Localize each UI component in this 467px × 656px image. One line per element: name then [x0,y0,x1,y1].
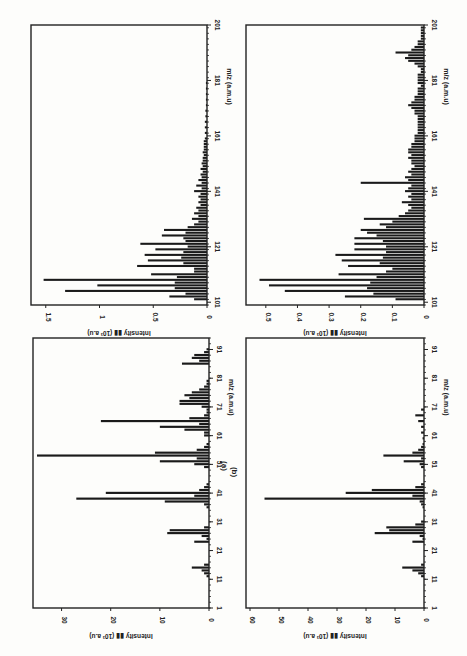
bar [415,46,424,48]
x-tick-label: 101 [431,297,438,308]
bar [184,429,209,431]
bar [184,394,209,396]
bar [412,452,424,454]
bar [412,541,424,543]
x-tick-label: 121 [431,241,438,252]
bar [361,229,424,231]
bar [201,193,207,195]
bar [405,190,424,192]
chart-panel-a-high: 10112114116118120100.511.5m/z (a.m.u)Int… [31,20,233,337]
plot-frame [246,338,424,608]
bar [160,460,209,462]
bar [408,157,424,159]
bar [196,207,207,209]
x-tick-label: 1 [431,606,438,610]
bar [194,190,207,192]
bar [194,354,209,356]
bar [335,254,424,256]
bar [411,198,424,200]
bar [418,43,424,45]
bar [383,454,424,456]
y-tick-label: 0.3 [328,312,335,321]
bar [197,457,209,459]
x-tick-label: 21 [431,547,438,555]
bar [418,449,424,451]
y-tick-label: 20 [110,616,117,624]
bar [65,290,207,292]
x-tick-label: 201 [431,20,438,31]
bar [364,218,424,220]
bar [408,179,424,181]
x-tick-label: 71 [431,403,438,411]
bar [411,107,424,109]
y-tick-label: 40 [307,616,314,624]
x-tick-label: 81 [431,375,438,383]
bar [204,503,209,505]
y-tick-label: 0.1 [391,312,398,321]
bar [415,140,424,142]
bar [408,60,424,62]
x-tick-label: 81 [216,375,223,383]
bar [411,101,424,103]
y-tick-label: 1 [99,315,106,319]
x-axis-label: m/z (a.m.u) [225,68,233,105]
bar [411,162,424,164]
bar [202,187,207,189]
bar [192,218,207,220]
bar [259,279,424,281]
bar [346,492,424,494]
bar [140,243,207,245]
bar [180,403,209,405]
bar [392,268,424,270]
bar [370,282,424,284]
bar [198,215,207,217]
bar [188,226,207,228]
bar [199,388,209,390]
bar [408,187,424,189]
bar [372,489,424,491]
bar [418,65,424,67]
bar [415,414,424,416]
bar [198,179,207,181]
mass-spectra-figure: 10112114116118120100.511.5m/z (a.m.u)Int… [0,0,467,656]
plot-frame [31,25,207,305]
y-tick-label: 0 [423,618,430,622]
bar [186,232,208,234]
bars [44,82,207,300]
bar [186,240,208,242]
x-tick-label: 121 [214,241,221,252]
bar [189,397,209,399]
bar [405,212,424,214]
bar [415,110,424,112]
y-tick-label: 1.5 [45,312,52,321]
bar [402,201,424,203]
bar [418,88,424,90]
bar [408,151,424,153]
x-tick-label: 141 [431,186,438,197]
bar [375,532,424,534]
y-tick-label: 0.5 [265,312,272,321]
x-tick-label: 101 [214,297,221,308]
bar [269,284,424,286]
bar [418,121,424,123]
bar [386,526,424,528]
x-axis-label: m/z (a.m.u) [227,379,235,416]
bar [342,259,424,261]
bar [175,287,207,289]
bar [418,129,424,131]
bar [177,276,207,278]
bar [183,237,207,239]
bar [404,460,424,462]
y-tick-label: 0 [423,315,430,319]
y-tick-label: 0 [206,315,213,319]
bar [411,168,424,170]
bar [201,173,207,175]
bars [265,409,425,578]
bars [259,27,424,301]
bar [204,414,209,416]
bar [169,295,207,297]
bar [194,463,209,465]
bar [383,257,424,259]
chart-panel-b-high: 10112114116118120100.10.20.30.40.5m/z (a… [246,20,450,337]
bar [408,149,424,151]
